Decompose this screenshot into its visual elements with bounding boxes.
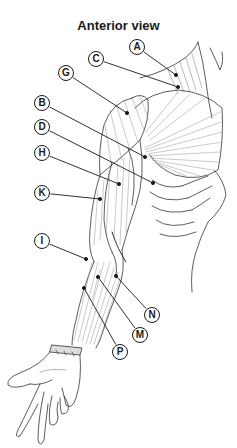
label-i: I [34,233,50,249]
leader-dot-n [114,274,117,277]
label-d: D [34,119,50,135]
leader-line-m [98,277,135,328]
leader-dot-c [176,85,179,88]
leader-dot-m [96,275,99,278]
label-a: A [129,39,145,55]
label-g: G [58,65,74,81]
leader-line-b [50,107,145,157]
leader-dot-g [125,111,128,114]
leader-dot-p [82,286,85,289]
label-b: B [34,95,50,111]
leader-line-i [50,244,86,259]
label-n: N [144,307,160,323]
arm-muscle-illustration [0,0,237,448]
leader-line-n [116,276,146,309]
leader-dot-d [151,181,154,184]
leader-dot-k [98,197,101,200]
label-c: C [88,51,104,67]
label-h: H [34,145,50,161]
label-p: P [112,344,128,360]
leader-line-k [50,194,100,199]
leader-line-g [73,78,127,113]
leader-dot-a [174,73,177,76]
label-m: M [132,327,148,343]
label-k: K [34,185,50,201]
leader-dot-b [143,155,146,158]
leader-line-c [104,62,178,87]
leader-dot-i [84,257,87,260]
leader-dot-h [117,182,120,185]
